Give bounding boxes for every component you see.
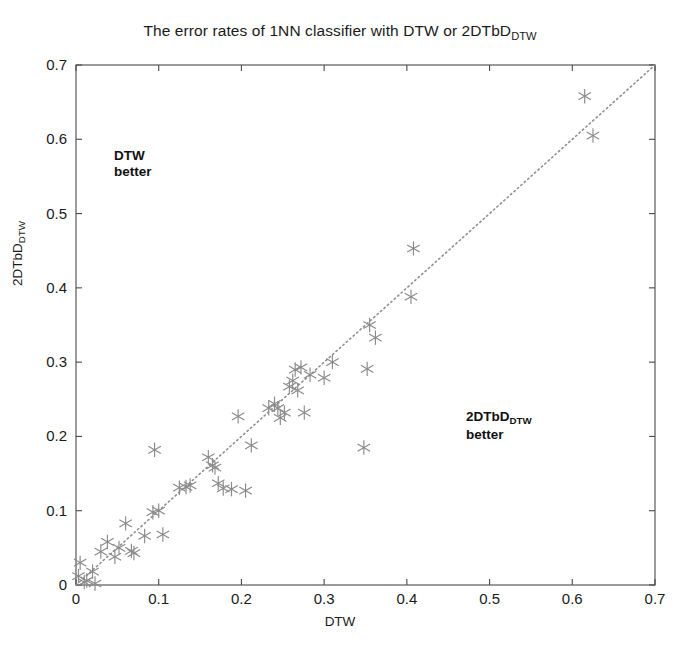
- y-axis-label: 2DTbDDTW: [10, 221, 27, 286]
- data-point-marker: [128, 546, 140, 560]
- data-point-marker: [407, 241, 419, 255]
- x-tick-label: 0.7: [645, 590, 666, 607]
- data-point-marker: [245, 438, 257, 452]
- data-point-marker: [318, 371, 330, 385]
- data-point-marker: [209, 460, 221, 474]
- data-point-marker: [326, 355, 338, 369]
- data-point-marker: [578, 89, 590, 103]
- x-tick-label: 0.1: [148, 590, 169, 607]
- data-point-marker: [152, 504, 164, 518]
- y-axis-label-main: 2DTbD: [10, 243, 25, 286]
- x-tick-label: 0.6: [562, 590, 583, 607]
- data-point-marker: [125, 544, 137, 558]
- data-point-marker: [298, 405, 310, 419]
- data-point-marker: [225, 482, 237, 496]
- y-tick-label: 0.6: [46, 130, 67, 147]
- data-point-marker: [119, 516, 131, 530]
- data-point-marker: [361, 362, 373, 376]
- data-point-marker: [358, 440, 370, 454]
- y-tick-label: 0.4: [46, 279, 67, 296]
- plot-canvas: 00.10.20.30.40.50.60.700.10.20.30.40.50.…: [0, 0, 680, 650]
- annotation-2dtbd-subscript: DTW: [510, 415, 532, 426]
- data-point-marker: [369, 330, 381, 344]
- data-point-marker: [138, 529, 150, 543]
- x-axis-label: DTW: [0, 614, 680, 629]
- data-point-marker: [148, 443, 160, 457]
- annotation-dtw-better: DTW better: [114, 148, 152, 181]
- data-point-marker: [101, 535, 113, 549]
- x-tick-label: 0.5: [479, 590, 500, 607]
- x-tick-label: 0.3: [314, 590, 335, 607]
- y-tick-label: 0: [59, 576, 67, 593]
- annotation-dtw-better-line2: better: [114, 164, 152, 180]
- y-tick-label: 0.3: [46, 353, 67, 370]
- y-tick-label: 0.1: [46, 502, 67, 519]
- identity-reference-line: [76, 65, 655, 585]
- annotation-2dtbd-better: 2DTbDDTW better: [466, 409, 532, 443]
- data-point-marker: [587, 128, 599, 142]
- data-point-marker: [95, 544, 107, 558]
- y-tick-label: 0.2: [46, 427, 67, 444]
- x-tick-label: 0.4: [396, 590, 417, 607]
- annotation-dtw-better-line1: DTW: [114, 148, 152, 164]
- annotation-2dtbd-main: 2DTbD: [466, 409, 510, 424]
- x-tick-label: 0: [72, 590, 80, 607]
- y-tick-label: 0.7: [46, 56, 67, 73]
- x-tick-label: 0.2: [231, 590, 252, 607]
- data-point-marker: [405, 290, 417, 304]
- data-point-marker: [157, 527, 169, 541]
- data-point-marker: [363, 318, 375, 332]
- y-tick-label: 0.5: [46, 205, 67, 222]
- annotation-2dtbd-better-line1: 2DTbDDTW: [466, 409, 532, 427]
- annotation-2dtbd-better-line2: better: [466, 427, 532, 443]
- data-point-marker: [239, 483, 251, 497]
- y-axis-label-subscript: DTW: [16, 221, 27, 243]
- scatter-plot-figure: The error rates of 1NN classifier with D…: [0, 0, 680, 650]
- data-point-marker: [232, 409, 244, 423]
